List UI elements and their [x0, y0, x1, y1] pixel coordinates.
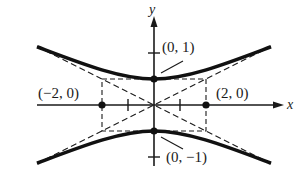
label-point-0-neg1: (0, −1): [166, 149, 207, 166]
leader-line-top: [161, 61, 183, 73]
x-axis-arrow-icon: [273, 102, 284, 109]
leader-line-bottom: [161, 137, 183, 149]
label-point-neg2-0: (−2, 0): [38, 85, 79, 102]
vertex-bottom-point: [150, 127, 157, 134]
point-neg2-0: [98, 101, 105, 108]
y-axis-arrow-icon: [151, 16, 158, 27]
point-2-0: [202, 101, 209, 108]
hyperbola-diagram: x y (0, 1) (0, −1) (−2, 0) (2, 0): [0, 0, 300, 194]
label-point-0-1: (0, 1): [162, 39, 195, 56]
vertex-top-point: [150, 75, 157, 82]
x-axis-label: x: [286, 97, 294, 112]
y-axis-label: y: [147, 2, 156, 17]
label-point-2-0: (2, 0): [216, 85, 249, 102]
